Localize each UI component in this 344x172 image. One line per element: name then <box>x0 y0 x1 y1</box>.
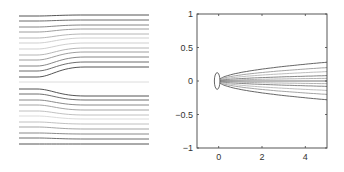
x-tick-label: 4 <box>303 152 308 162</box>
streamline <box>19 89 149 96</box>
contour-line <box>220 83 327 100</box>
streamline <box>19 100 149 105</box>
streamline <box>19 29 149 32</box>
x-tick-label: 0 <box>216 152 221 162</box>
y-tick-label: 0.5 <box>180 43 193 53</box>
streamline <box>19 57 149 66</box>
streamline <box>19 52 149 60</box>
streamline <box>19 116 149 119</box>
streamline <box>19 122 149 124</box>
y-tick-label: 1 <box>188 9 193 19</box>
contour-line <box>220 62 327 79</box>
streamline <box>19 25 149 27</box>
y-tick-label: −0.5 <box>175 110 193 120</box>
streamline <box>19 38 149 43</box>
streamline <box>19 20 149 21</box>
figure: 02410.50−0.5−1 <box>0 0 344 172</box>
y-tick-label: −1 <box>183 143 193 153</box>
streamline <box>19 34 149 38</box>
y-tick-label: 0 <box>188 76 193 86</box>
streamline <box>19 111 149 115</box>
nose-body <box>214 73 220 90</box>
streamline <box>19 67 149 77</box>
streamline <box>19 15 149 16</box>
streamline <box>19 105 149 110</box>
streamline <box>19 133 149 134</box>
streamline <box>19 94 149 100</box>
streamline <box>19 62 149 71</box>
streamline <box>19 138 149 139</box>
contour-plot: 02410.50−0.5−1 <box>175 9 327 162</box>
streamline-panel <box>19 15 149 144</box>
x-tick-label: 2 <box>259 152 264 162</box>
streamline <box>19 127 149 129</box>
